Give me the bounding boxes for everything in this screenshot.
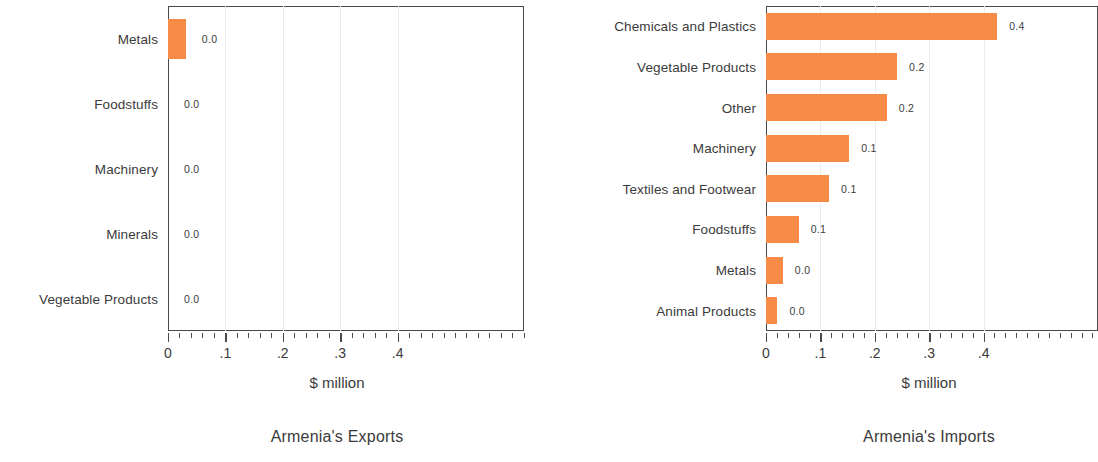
axis-tick-minor (1038, 333, 1039, 338)
gridline (225, 6, 226, 331)
x-axis-tick-label: .4 (392, 345, 404, 361)
axis-tick-minor (897, 333, 898, 338)
axis-tick-minor (1005, 333, 1006, 338)
axis-tick-minor (432, 333, 433, 338)
chart-caption-exports: Armenia's Exports (271, 428, 404, 446)
axis-tick-minor (317, 333, 318, 338)
value-label: 0.0 (184, 163, 200, 175)
value-label: 0.1 (861, 142, 877, 154)
axis-tick-minor (179, 333, 180, 338)
axis-tick-minor (1060, 333, 1061, 338)
axis-tick-major (929, 333, 930, 342)
axis-tick-minor (260, 333, 261, 338)
axis-tick-minor (375, 333, 376, 338)
axis-tick-minor (409, 333, 410, 338)
axis-tick-minor (1082, 333, 1083, 338)
axis-tick-minor (994, 333, 995, 338)
category-label: Minerals (106, 226, 158, 241)
axis-tick-minor (444, 333, 445, 338)
category-label: Vegetable Products (637, 59, 756, 74)
axis-tick-minor (777, 333, 778, 338)
axis-tick-minor (951, 333, 952, 338)
value-label: 0.2 (899, 102, 915, 114)
axis-tick-major (398, 333, 399, 342)
axis-tick-minor (512, 333, 513, 338)
axis-tick-minor (455, 333, 456, 338)
axis-tick-minor (962, 333, 963, 338)
axis-tick-major (984, 333, 985, 342)
axis-tick-minor (329, 333, 330, 338)
axis-tick-minor (799, 333, 800, 338)
value-label: 0.0 (795, 264, 811, 276)
category-label: Foodstuffs (94, 96, 158, 111)
category-label: Machinery (693, 141, 756, 156)
gridline (340, 6, 341, 331)
x-axis-tick-label: .3 (923, 345, 935, 361)
x-axis-tick-label: 0 (762, 345, 770, 361)
x-axis-tick-label: 0 (164, 345, 172, 361)
axis-tick-major (766, 333, 767, 342)
axis-tick-minor (478, 333, 479, 338)
bar (766, 175, 829, 202)
value-label: 0.0 (202, 33, 218, 45)
plot-frame-exports (168, 6, 524, 331)
value-label: 0.1 (811, 223, 827, 235)
axis-tick-minor (271, 333, 272, 338)
axis-tick-minor (191, 333, 192, 338)
axis-tick-minor (853, 333, 854, 338)
bar (168, 19, 186, 59)
axis-tick-major (283, 333, 284, 342)
axis-tick-minor (466, 333, 467, 338)
axis-tick-minor (831, 333, 832, 338)
bar (766, 297, 777, 324)
category-label: Chemicals and Plastics (614, 19, 756, 34)
value-label: 0.0 (789, 305, 805, 317)
axis-tick-minor (1049, 333, 1050, 338)
bar (766, 53, 897, 80)
value-label: 0.4 (1009, 20, 1025, 32)
bar (766, 257, 783, 284)
axis-tick-minor (352, 333, 353, 338)
axis-tick-major (875, 333, 876, 342)
bar (766, 216, 799, 243)
x-axis-tick-label: .1 (220, 345, 232, 361)
gridline (283, 6, 284, 331)
axis-tick-minor (421, 333, 422, 338)
axis-tick-minor (886, 333, 887, 338)
bar (766, 13, 997, 40)
axis-tick-major (820, 333, 821, 342)
gridline (984, 6, 985, 331)
axis-tick-minor (940, 333, 941, 338)
x-axis-tick-label: .2 (869, 345, 881, 361)
x-axis-tick-label: .3 (334, 345, 346, 361)
axis-tick-minor (1027, 333, 1028, 338)
category-label: Machinery (95, 161, 158, 176)
axis-tick-minor (363, 333, 364, 338)
axis-tick-minor (214, 333, 215, 338)
axis-tick-minor (294, 333, 295, 338)
bar (766, 94, 887, 121)
value-label: 0.0 (184, 228, 200, 240)
chart-panel-exports: Metals0.0Foodstuffs0.0Machinery0.0Minera… (0, 0, 549, 462)
chart-caption-imports: Armenia's Imports (863, 428, 995, 446)
axis-tick-minor (864, 333, 865, 338)
category-label: Vegetable Products (39, 291, 158, 306)
category-label: Textiles and Footwear (623, 181, 756, 196)
axis-tick-minor (248, 333, 249, 338)
category-label: Other (722, 100, 756, 115)
axis-tick-minor (501, 333, 502, 338)
axis-tick-minor (973, 333, 974, 338)
axis-tick-minor (1071, 333, 1072, 338)
x-axis-tick-label: .2 (277, 345, 289, 361)
gridline (398, 6, 399, 331)
value-label: 0.0 (184, 293, 200, 305)
axis-tick-major (340, 333, 341, 342)
x-axis-title-exports: $ million (309, 374, 364, 391)
axis-tick-minor (842, 333, 843, 338)
axis-tick-minor (907, 333, 908, 338)
charts-container: Metals0.0Foodstuffs0.0Machinery0.0Minera… (0, 0, 1098, 462)
axis-tick-minor (489, 333, 490, 338)
axis-tick-minor (918, 333, 919, 338)
x-axis-tick-label: .4 (978, 345, 990, 361)
value-label: 0.0 (184, 98, 200, 110)
